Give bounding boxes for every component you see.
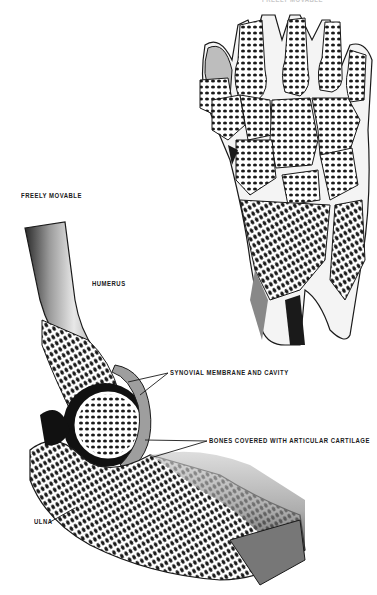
synovial-label: SYNOVIAL MEMBRANE AND CAVITY — [170, 369, 289, 376]
elbow-section-title: FREELY MOVABLE — [21, 192, 82, 199]
top-section-label: FREELY MOVABLE — [262, 0, 323, 3]
humerus-label: HUMERUS — [92, 280, 126, 287]
wrist-illustration — [200, 15, 372, 345]
cartilage-label: BONES COVERED WITH ARTICULAR CARTILAGE — [209, 437, 370, 444]
ulna-label: ULNA — [34, 518, 53, 525]
anatomy-illustration — [0, 0, 377, 595]
